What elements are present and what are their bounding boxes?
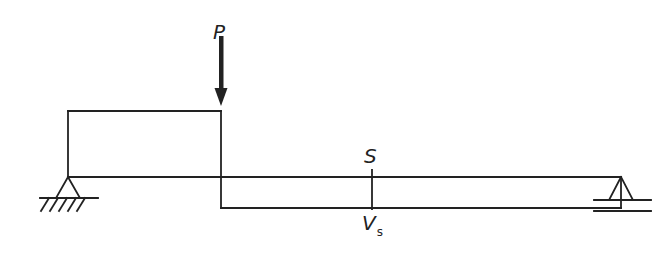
shear-label: Vs — [362, 213, 382, 233]
lower-segment — [221, 177, 621, 208]
load-arrow-icon — [215, 36, 228, 106]
roller-support-icon — [594, 177, 651, 211]
pin-support-icon — [40, 177, 98, 211]
upper-block — [68, 111, 221, 208]
shear-symbol: V — [362, 211, 376, 235]
load-label: P — [213, 22, 225, 42]
shear-subscript: s — [377, 225, 383, 239]
structure-svg — [0, 0, 672, 258]
section-label: S — [364, 146, 377, 166]
